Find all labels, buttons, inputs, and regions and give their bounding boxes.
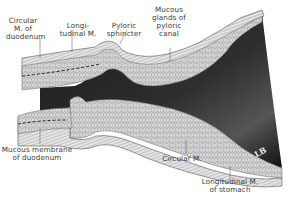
pylorus-section-figure: Circular M. of duodenum Longi- tudinal M… <box>0 0 289 198</box>
pylorus-illustration <box>0 0 289 198</box>
label-longitudinal-m: Longi- tudinal M. <box>58 22 98 38</box>
label-pyloric-sphincter: Pyloric sphincter <box>104 22 144 38</box>
label-circular-m: Circular M. <box>157 155 207 163</box>
label-circular-m-of-duodenum: Circular M. of duodenum <box>6 17 40 41</box>
label-mucous-glands-of-pyloric-canal: Mucous glands of pyloric canal <box>150 6 188 38</box>
label-mucous-membrane-of-duodenum: Mucous membrane of duodenum <box>0 146 74 162</box>
label-longitudinal-m-of-stomach: Longitudinal M. of stomach <box>194 178 266 194</box>
